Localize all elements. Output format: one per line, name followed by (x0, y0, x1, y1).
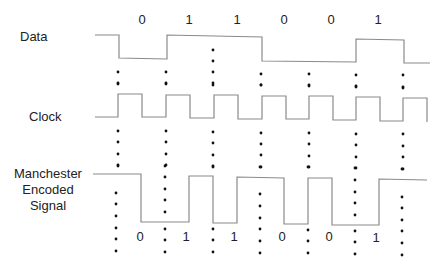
data-waveform (95, 35, 430, 63)
timing-diagram-canvas (0, 0, 436, 267)
clock-waveform (95, 94, 427, 122)
